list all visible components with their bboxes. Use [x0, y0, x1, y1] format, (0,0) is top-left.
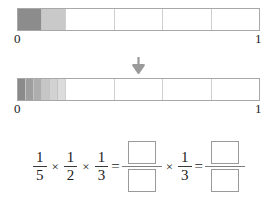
fraction-one-half-denominator: 2 — [64, 167, 78, 184]
fraction-one-third-b: 1 3 — [178, 149, 192, 184]
fraction-one-fifth: 1 5 — [33, 149, 47, 184]
equation-row: 1 5 × 1 2 × 1 3 = × 1 3 = — [31, 141, 246, 192]
bar-2-fifth-3 — [115, 79, 163, 100]
fraction-one-third-a: 1 3 — [95, 149, 109, 184]
answer-box-1-numerator[interactable] — [128, 141, 156, 164]
multiply-operator-1: × — [52, 159, 59, 174]
fraction-one-half: 1 2 — [64, 149, 78, 184]
fraction-one-third-b-numerator: 1 — [178, 149, 192, 166]
bar-2-fifth-1 — [18, 79, 66, 100]
fraction-one-fifth-numerator: 1 — [33, 149, 47, 166]
answer-box-2-numerator[interactable] — [211, 141, 239, 164]
equals-sign-1: = — [111, 159, 119, 174]
fraction-one-third-a-numerator: 1 — [95, 149, 109, 166]
fraction-bar — [205, 166, 245, 167]
bar-2-segment-3 — [33, 79, 41, 100]
bar-1-fifth-1 — [18, 9, 66, 30]
fraction-one-half-numerator: 1 — [64, 149, 78, 166]
answer-fraction-1 — [122, 141, 162, 192]
arrow-down-icon — [0, 55, 277, 75]
bar-2-fifth-5 — [212, 79, 259, 100]
bar-1-segment-shaded — [18, 9, 41, 30]
bar-1-fifth-5 — [212, 9, 259, 30]
bar-2-end-label: 1 — [255, 101, 262, 117]
multiply-operator-3: × — [166, 159, 173, 174]
fraction-one-third-b-denominator: 3 — [178, 167, 192, 184]
bar-2-segment-6 — [57, 79, 65, 100]
fraction-bar — [122, 166, 162, 167]
answer-box-1-denominator[interactable] — [128, 169, 156, 192]
bar-2-segment-4 — [41, 79, 49, 100]
bar-1-fifth-3 — [115, 9, 163, 30]
bar-2 — [17, 78, 260, 101]
bar-2-fifth-2 — [66, 79, 114, 100]
bar-1-start-label: 0 — [14, 31, 21, 47]
bar-1-end-label: 1 — [255, 31, 262, 47]
bar-2-start-label: 0 — [14, 101, 21, 117]
bar-1 — [17, 8, 260, 31]
fraction-one-third-a-denominator: 3 — [95, 167, 109, 184]
equation: 1 5 × 1 2 × 1 3 = × 1 3 = — [0, 133, 277, 199]
equals-sign-2: = — [195, 159, 203, 174]
fraction-one-fifth-denominator: 5 — [33, 167, 47, 184]
answer-fraction-2 — [205, 141, 245, 192]
answer-box-2-denominator[interactable] — [211, 169, 239, 192]
bar-1-segment-light — [41, 9, 65, 30]
bar-2-segment-5 — [49, 79, 57, 100]
bar-1-fifth-2 — [66, 9, 114, 30]
bar-2-segment-2 — [25, 79, 33, 100]
multiply-operator-2: × — [82, 159, 89, 174]
bar-2-segment-1 — [18, 79, 25, 100]
bar-2-fifth-4 — [163, 79, 211, 100]
bar-1-fifth-4 — [163, 9, 211, 30]
